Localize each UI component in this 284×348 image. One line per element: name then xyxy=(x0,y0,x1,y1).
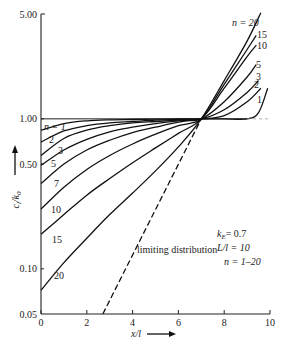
param-kE: kE= 0.7 xyxy=(217,228,246,241)
param-n-range: n = 1–20 xyxy=(224,256,261,267)
y-tick-label: 0.10 xyxy=(20,263,38,274)
curve-label-n2: 2 xyxy=(49,134,54,145)
curve-label-n20: n = 20 xyxy=(232,17,259,28)
curve-label-right-n1: 1 xyxy=(257,94,262,105)
curve-n-10 xyxy=(41,45,256,209)
curve-label-n3: 3 xyxy=(58,145,63,156)
curve-label-n5: 5 xyxy=(51,158,56,169)
x-tick-label: 4 xyxy=(130,317,135,328)
curve-label-right-n5: 5 xyxy=(256,59,261,70)
x-tick-label: 2 xyxy=(84,317,89,328)
x-tick-label: 8 xyxy=(222,317,227,328)
curve-label-right-n15: 15 xyxy=(257,29,267,40)
curve-n-3 xyxy=(41,81,259,156)
curve-label-n15: 15 xyxy=(52,234,62,245)
y-arrow-head-icon xyxy=(12,145,18,153)
y-tick-label: 0.50 xyxy=(20,159,38,170)
curve-label-n7: 7 xyxy=(54,178,59,189)
x-tick-label: 10 xyxy=(265,317,275,328)
param-L-over-l: L/l = 10 xyxy=(216,242,250,253)
curve-label-n10: 10 xyxy=(51,204,61,215)
y-axis-label: cl/k0 xyxy=(10,191,23,209)
curve-label-n1: n = 1 xyxy=(44,121,66,132)
curve-label-right-n10: 10 xyxy=(257,40,267,51)
labels: 2357101520n = 1n = 2015105321kE= 0.7L/l … xyxy=(10,17,267,339)
x-arrow-head-icon xyxy=(169,331,176,337)
y-tick-label: 5.00 xyxy=(20,9,38,20)
x-axis-label: x/l xyxy=(130,328,141,339)
curve-label-right-n2: 2 xyxy=(254,79,259,90)
curve-label-n20: 20 xyxy=(54,270,64,281)
x-tick-label: 0 xyxy=(39,317,44,328)
y-tick-label: 0.05 xyxy=(20,309,38,320)
limiting-distribution-label: limiting distribution xyxy=(137,244,217,255)
y-tick-label: 1.00 xyxy=(20,113,38,124)
limiting-distribution-line xyxy=(103,119,201,314)
chart-canvas: 02468100.050.100.501.005.00 2357101520n … xyxy=(0,0,284,348)
x-tick-label: 6 xyxy=(176,317,181,328)
curves xyxy=(41,13,270,314)
